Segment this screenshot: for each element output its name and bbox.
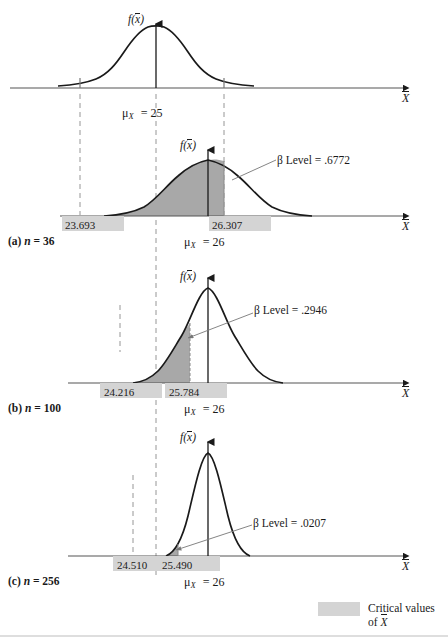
panel-c-n256 — [68, 442, 404, 556]
mu-value-a: = 26 — [203, 235, 225, 249]
panel-caption-letter-b: (b) — [8, 402, 22, 414]
beta-level-figure: f(x) X μX = 25 f(x) X β Level = .6772 23… — [0, 0, 448, 642]
panel-caption-value-a: = 36 — [34, 235, 55, 247]
beta-leader-c — [176, 525, 252, 550]
mu-subscript-a: X — [190, 240, 195, 250]
critical-value-right-b: 25.784 — [169, 386, 199, 398]
panel-null-distribution — [10, 24, 404, 88]
mu-subscript-null: X — [128, 111, 133, 121]
x-axis-label-c: X — [402, 560, 409, 572]
beta-level-label-c: β Level = .0207 — [253, 518, 326, 530]
figure-canvas — [0, 0, 448, 642]
beta-leader-a — [232, 160, 276, 180]
x-axis-label-b: X — [402, 387, 409, 399]
beta-leader-b — [188, 313, 253, 338]
panel-b-n100 — [68, 278, 404, 383]
critical-value-right-c: 25.490 — [162, 559, 192, 571]
y-axis-label-b: f(x) — [180, 271, 196, 283]
panel-a-n36 — [60, 150, 404, 216]
mu-label-c: μX = 26 — [184, 576, 224, 590]
beta-level-label-b: β Level = .2946 — [254, 305, 327, 317]
panel-caption-b: (b) n = 100 — [8, 403, 61, 415]
x-axis-label-a: X — [402, 220, 409, 232]
mu-value-b: = 26 — [203, 402, 225, 416]
critical-value-left-a: 23.693 — [65, 219, 95, 231]
y-axis-label-a: f(x) — [180, 140, 196, 152]
mu-value-null: = 25 — [141, 106, 163, 120]
legend-swatch-critical-values — [318, 602, 360, 616]
y-axis-label-c: f(x) — [180, 432, 196, 444]
y-axis-label-null: f(x) — [128, 14, 144, 26]
legend-line-2: of X — [368, 615, 435, 629]
panel-caption-n-a: n — [24, 235, 30, 247]
panel-caption-a: (a) n = 36 — [8, 236, 55, 248]
panel-caption-letter-c: (c) — [8, 575, 21, 587]
critical-value-left-b: 24.216 — [104, 386, 134, 398]
legend-line-1: Critical values — [368, 601, 435, 615]
mu-value-c: = 26 — [203, 575, 225, 589]
panel-caption-letter-a: (a) — [8, 235, 21, 247]
x-axis-label-null: X — [402, 92, 409, 104]
legend-line-2-prefix: of — [368, 616, 380, 628]
mu-label-null: μX = 25 — [122, 107, 162, 121]
beta-shaded-region-b — [133, 323, 190, 383]
critical-value-left-c: 24.510 — [117, 559, 147, 571]
panel-caption-n-c: n — [24, 575, 30, 587]
panel-caption-value-c: = 256 — [33, 575, 60, 587]
mu-subscript-c: X — [190, 580, 195, 590]
mu-subscript-b: X — [190, 407, 195, 417]
panel-caption-n-b: n — [25, 402, 31, 414]
mu-label-b: μX = 26 — [184, 403, 224, 417]
legend-label-critical-values: Critical values of X — [368, 601, 435, 630]
mu-label-a: μX = 26 — [184, 236, 224, 250]
beta-level-label-a: β Level = .6772 — [277, 155, 350, 167]
critical-value-right-a: 26.307 — [212, 219, 242, 231]
beta-shaded-region-a — [104, 159, 224, 216]
panel-caption-value-b: = 100 — [34, 402, 61, 414]
panel-caption-c: (c) n = 256 — [8, 576, 60, 588]
